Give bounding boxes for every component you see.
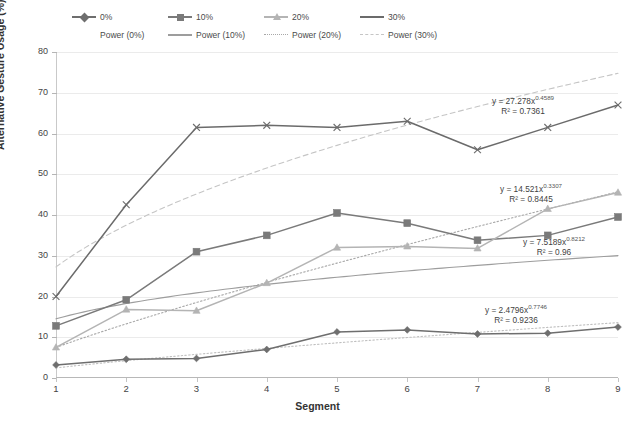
x-axis-tick <box>407 378 408 382</box>
chart-figure: 0%10%20%30% Power (0%)Power (10%)Power (… <box>0 0 635 422</box>
x-tick-label: 1 <box>43 384 69 394</box>
legend-swatch-icon <box>168 11 192 23</box>
data-point-marker <box>263 346 270 353</box>
legend-row-trendlines: Power (0%)Power (10%)Power (20%)Power (3… <box>0 26 635 44</box>
x-tick-label: 6 <box>394 384 420 394</box>
data-point-marker <box>193 355 200 362</box>
legend-swatch-icon <box>360 11 384 23</box>
legend-line-icon <box>360 34 384 35</box>
x-tick-label: 2 <box>113 384 139 394</box>
y-tick-label: 60 <box>18 129 48 138</box>
chart-legend: 0%10%20%30% Power (0%)Power (10%)Power (… <box>0 4 635 44</box>
y-tick-label: 40 <box>18 210 48 219</box>
data-point-marker <box>334 210 341 217</box>
legend-marker-diamond-icon <box>80 12 90 22</box>
legend-label: 0% <box>100 13 112 22</box>
legend-row-series: 0%10%20%30% <box>0 8 635 26</box>
legend-label: 10% <box>196 13 213 22</box>
annotation-equation-20-line1: y = 7.5189x <box>523 237 566 247</box>
legend-swatch-icon <box>168 29 192 41</box>
x-axis-tick <box>337 378 338 382</box>
legend-swatch-icon <box>264 29 288 41</box>
y-tick-label: 10 <box>18 332 48 341</box>
data-point-marker <box>123 296 130 303</box>
x-axis-tick <box>548 378 549 382</box>
legend-label: 20% <box>292 13 309 22</box>
annotation-equation-20: y = 7.5189x0.8212 R² = 0.96 <box>523 235 585 257</box>
legend-label: Power (30%) <box>388 31 437 40</box>
legend-marker-triangle-icon <box>273 13 281 20</box>
legend-item-power-30-[interactable]: Power (30%) <box>360 26 456 44</box>
x-tick-label: 9 <box>605 384 631 394</box>
annotation-equation-0-exponent: 0.7746 <box>528 303 547 310</box>
data-point-marker <box>53 362 60 369</box>
y-tick-label: 0 <box>18 373 48 382</box>
legend-item-20-[interactable]: 20% <box>264 8 360 26</box>
x-tick-label: 3 <box>184 384 210 394</box>
data-point-marker <box>474 237 481 244</box>
x-tick-label: 4 <box>254 384 280 394</box>
y-axis-title: Alternative Gesture Usage (%) <box>0 0 6 150</box>
legend-item-power-20-[interactable]: Power (20%) <box>264 26 360 44</box>
annotation-equation-0-line2: R² = 0.9236 <box>485 315 547 325</box>
annotation-equation-30-line2: R² = 0.7361 <box>492 106 554 116</box>
data-point-marker <box>615 214 622 221</box>
legend-marker-square-icon <box>177 14 184 21</box>
data-point-marker <box>193 248 200 255</box>
x-tick-label: 5 <box>324 384 350 394</box>
y-tick-label: 80 <box>18 47 48 56</box>
annotation-equation-30-line1: y = 27.278x <box>492 96 535 106</box>
legend-swatch-icon <box>72 29 96 41</box>
annotation-equation-10: y = 14.521x0.3307 R² = 0.8445 <box>500 182 562 204</box>
legend-item-power-0-[interactable]: Power (0%) <box>72 26 168 44</box>
legend-label: Power (20%) <box>292 31 341 40</box>
annotation-equation-30-exponent: 0.4589 <box>535 94 554 101</box>
legend-item-0-[interactable]: 0% <box>72 8 168 26</box>
legend-swatch-icon <box>360 29 384 41</box>
legend-swatch-icon <box>264 11 288 23</box>
series-0pct <box>53 324 622 369</box>
x-axis-tick <box>267 378 268 382</box>
data-point-marker <box>123 201 130 208</box>
legend-line-icon <box>264 34 288 35</box>
data-point-marker <box>404 327 411 334</box>
annotation-equation-10-exponent: 0.3307 <box>543 182 562 189</box>
x-axis-tick <box>56 378 57 382</box>
legend-line-icon <box>168 34 192 36</box>
data-point-marker <box>404 220 411 227</box>
annotation-equation-20-line2: R² = 0.96 <box>523 247 585 257</box>
data-point-marker <box>53 322 60 329</box>
legend-label: Power (0%) <box>100 31 144 40</box>
legend-label: Power (10%) <box>196 31 245 40</box>
y-tick-label: 50 <box>18 169 48 178</box>
legend-item-30-[interactable]: 30% <box>360 8 456 26</box>
x-axis-tick <box>197 378 198 382</box>
annotation-equation-0-line1: y = 2.4796x <box>485 305 528 315</box>
x-axis-title: Segment <box>0 400 635 412</box>
data-point-marker <box>544 330 551 337</box>
legend-item-power-10-[interactable]: Power (10%) <box>168 26 264 44</box>
y-tick-label: 30 <box>18 251 48 260</box>
legend-label: 30% <box>388 13 405 22</box>
annotation-equation-0: y = 2.4796x0.7746 R² = 0.9236 <box>485 303 547 325</box>
annotation-equation-30: y = 27.278x0.4589 R² = 0.7361 <box>492 94 554 116</box>
annotation-equation-20-exponent: 0.8212 <box>566 235 585 242</box>
data-point-marker <box>334 329 341 336</box>
data-point-marker <box>123 356 130 363</box>
data-point-marker <box>615 324 622 331</box>
annotation-equation-10-line2: R² = 0.8445 <box>500 194 562 204</box>
legend-item-10-[interactable]: 10% <box>168 8 264 26</box>
x-tick-label: 8 <box>535 384 561 394</box>
x-axis-tick <box>126 378 127 382</box>
annotation-equation-10-line1: y = 14.521x <box>500 184 543 194</box>
data-point-marker <box>474 331 481 338</box>
data-point-marker <box>263 232 270 239</box>
x-axis-tick <box>478 378 479 382</box>
y-tick-label: 70 <box>18 88 48 97</box>
y-tick-label: 20 <box>18 292 48 301</box>
x-tick-label: 7 <box>465 384 491 394</box>
x-axis-tick <box>618 378 619 382</box>
legend-swatch-icon <box>72 11 96 23</box>
legend-line-icon <box>360 16 384 18</box>
